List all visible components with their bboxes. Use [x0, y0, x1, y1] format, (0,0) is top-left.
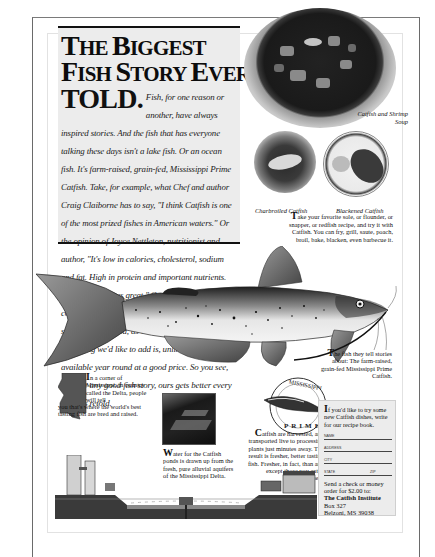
blackened-catfish-photo	[323, 131, 389, 197]
soup-caption: Catfish and Shrimp Soup	[352, 110, 408, 125]
recipe-book-coupon: If you'd like to try some new Catfish di…	[318, 400, 396, 516]
take-recipe-copy: Take your favorite sole, or flounder, or…	[283, 212, 393, 243]
headline-panel: THE BIGGEST FISH STORY EVER TOLD. Fish, …	[58, 26, 240, 244]
coupon-state-zip-field[interactable]: StateZip	[324, 466, 392, 476]
charbroiled-catfish-photo	[254, 131, 316, 193]
coupon-city-field[interactable]: City	[324, 454, 392, 464]
coupon-intro: If you'd like to try some new Catfish di…	[324, 405, 392, 428]
headline-line-1: THE BIGGEST	[61, 34, 238, 60]
delta-copy: In a corner of Mississippi, in country c…	[86, 373, 154, 418]
coupon-mail-instructions: Send a check or money order for $2.00 to…	[324, 480, 392, 516]
headline-told: TOLD.	[61, 87, 143, 111]
coupon-org: The Catfish Institute	[324, 494, 381, 501]
coupon-name-field[interactable]: Name	[324, 430, 392, 440]
fish-tell-copy: The fish they tell stories about: The fa…	[320, 349, 392, 380]
coupon-address-field[interactable]: Address	[324, 442, 392, 452]
delta-landscape-illustration	[55, 455, 317, 519]
catfish-pond-photo	[162, 393, 216, 445]
headline: THE BIGGEST FISH STORY EVER	[61, 34, 238, 86]
